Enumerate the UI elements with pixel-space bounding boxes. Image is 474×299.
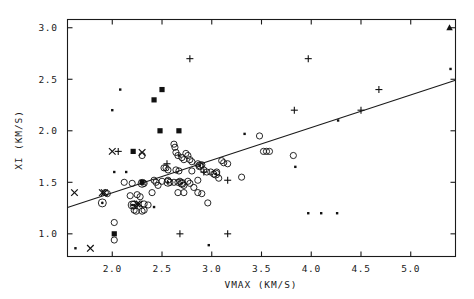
- data-point-open_circle: [127, 193, 133, 199]
- data-point-filled_square: [159, 87, 164, 92]
- x-tick-label: 2.0: [103, 263, 122, 274]
- data-point-open_circle: [139, 152, 145, 158]
- data-point-open_circle: [225, 161, 231, 167]
- data-point-open_circle: [189, 168, 195, 174]
- data-point-plus: [224, 230, 231, 237]
- x-tick-label: 2.5: [153, 263, 172, 274]
- data-point-open_circle: [175, 190, 181, 196]
- x-axis-title: VMAX (KM/S): [225, 279, 298, 290]
- data-point-small_dot: [307, 212, 309, 214]
- x-tick-label: 5.0: [401, 263, 420, 274]
- data-point-open_circle: [129, 180, 135, 186]
- data-point-open_circle: [290, 152, 296, 158]
- data-point-filled_square: [176, 128, 181, 133]
- data-point-plus: [176, 230, 183, 237]
- data-point-open_circle: [205, 200, 211, 206]
- data-point-plus: [186, 55, 193, 62]
- data-point-small_dot: [119, 88, 121, 90]
- y-axis-title: XI (KM/S): [13, 110, 24, 170]
- data-point-open_circle: [181, 190, 187, 196]
- y-tick-label: 1.0: [39, 228, 58, 239]
- data-point-open_circle: [121, 179, 127, 185]
- data-point-open_circle: [195, 190, 201, 196]
- data-point-small_dot: [449, 68, 451, 70]
- data-point-filled_square: [151, 97, 156, 102]
- y-tick-label: 2.5: [39, 74, 58, 85]
- data-point-circled_dot: [98, 199, 106, 207]
- data-point-small_dot: [178, 154, 180, 156]
- data-points: [71, 24, 453, 251]
- data-point-plus: [305, 55, 312, 62]
- data-point-filled_square: [140, 180, 145, 185]
- data-point-plus: [224, 177, 231, 184]
- data-point-cross_x: [87, 245, 94, 252]
- fit-line: [68, 80, 456, 207]
- data-point-cross_x: [109, 148, 116, 155]
- y-tick-label: 3.0: [39, 22, 58, 33]
- data-point-filled_square: [131, 149, 136, 154]
- data-point-small_dot: [153, 206, 155, 208]
- data-point-filled_square: [112, 231, 117, 236]
- data-point-plus: [163, 160, 170, 167]
- data-point-open_circle: [256, 133, 262, 139]
- x-tick-label: 4.0: [302, 263, 321, 274]
- y-tick-label: 1.5: [39, 177, 58, 188]
- data-point-small_dot: [113, 171, 115, 173]
- x-tick-labels: 2.02.53.03.54.04.55.0: [103, 263, 420, 274]
- data-point-small_dot: [337, 119, 339, 121]
- data-point-plus: [115, 148, 122, 155]
- data-point-open_circle: [149, 190, 155, 196]
- data-point-small_dot: [320, 212, 322, 214]
- data-point-small_dot: [243, 133, 245, 135]
- data-point-filled_square: [157, 128, 162, 133]
- data-point-open_circle: [239, 174, 245, 180]
- data-point-small_dot: [208, 244, 210, 246]
- data-point-small_dot: [294, 166, 296, 168]
- plot-canvas: 2.02.53.03.54.04.55.0 1.01.52.02.53.0 VM…: [0, 0, 474, 299]
- x-tick-label: 3.0: [202, 263, 221, 274]
- data-point-plus: [375, 86, 382, 93]
- data-point-plus: [291, 107, 298, 114]
- data-point-small_dot: [111, 109, 113, 111]
- data-point-open_circle: [141, 207, 147, 213]
- data-point-open_circle: [199, 191, 205, 197]
- data-point-small_dot: [336, 212, 338, 214]
- y-tick-labels: 1.01.52.02.53.0: [39, 22, 58, 239]
- data-point-small_dot: [125, 171, 127, 173]
- data-point-open_circle: [111, 219, 117, 225]
- data-point-cross_x: [139, 149, 146, 156]
- data-point-open_circle: [195, 177, 201, 183]
- regression-line: [68, 80, 456, 207]
- data-point-cross_x: [71, 189, 78, 196]
- data-point-open_circle: [111, 237, 117, 243]
- data-point-small_dot: [74, 247, 76, 249]
- x-tick-label: 4.5: [352, 263, 371, 274]
- scatter-plot-figure: 2.02.53.03.54.04.55.0 1.01.52.02.53.0 VM…: [0, 0, 474, 299]
- x-tick-label: 3.5: [252, 263, 271, 274]
- y-tick-label: 2.0: [39, 125, 58, 136]
